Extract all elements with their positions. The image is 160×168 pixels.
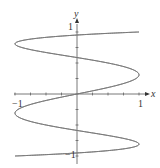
x-tick-label-1: 1	[138, 99, 143, 109]
y-axis-label: y	[74, 9, 78, 19]
x-tick-label-neg1: −1	[12, 99, 23, 109]
x-axis-label: x	[151, 89, 155, 99]
y-tick-label-1: 1	[68, 22, 73, 32]
axes	[14, 18, 150, 164]
chart-plot	[0, 0, 160, 168]
y-tick-label-neg1: −1	[65, 150, 76, 160]
x-axis-arrow	[145, 92, 150, 96]
